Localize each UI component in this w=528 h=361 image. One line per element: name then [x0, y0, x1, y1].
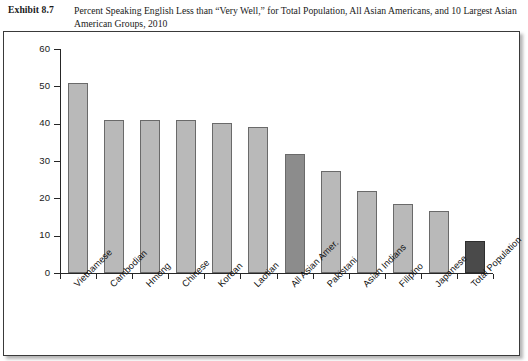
x-tick-mark — [457, 274, 458, 279]
bar — [176, 120, 196, 273]
bar-series — [60, 49, 493, 273]
exhibit-caption: Exhibit 8.7 Percent Speaking English Les… — [0, 0, 528, 32]
bar — [357, 191, 377, 273]
y-tick-label: 60 — [20, 44, 50, 54]
x-tick-mark — [349, 274, 350, 279]
x-tick-mark — [204, 274, 205, 279]
bar — [248, 127, 268, 273]
bar — [212, 123, 232, 273]
x-tick-mark — [493, 274, 494, 279]
x-tick-mark — [385, 274, 386, 279]
x-tick-mark — [168, 274, 169, 279]
bar — [285, 154, 305, 273]
x-axis-labels: VietnameseCambodianHmongChineseKoreanLao… — [60, 280, 500, 354]
x-tick-mark — [60, 274, 61, 279]
y-tick-label: 20 — [20, 193, 50, 203]
plot-area: 0102030405060 VietnameseCambodianHmongCh… — [4, 32, 519, 355]
y-tick-label: 50 — [20, 81, 50, 91]
y-tick-label: 40 — [20, 118, 50, 128]
bar — [393, 204, 413, 273]
x-tick-mark — [132, 274, 133, 279]
exhibit-title: Percent Speaking English Less than “Very… — [74, 4, 520, 30]
bar — [429, 211, 449, 273]
exhibit-number: Exhibit 8.7 — [8, 4, 54, 15]
x-tick-mark — [96, 274, 97, 279]
chart-container: 0102030405060 VietnameseCambodianHmongCh… — [3, 31, 520, 356]
y-tick-label: 10 — [20, 230, 50, 240]
x-tick-mark — [277, 274, 278, 279]
bar — [68, 83, 88, 273]
x-tick-mark — [240, 274, 241, 279]
x-tick-mark — [313, 274, 314, 279]
y-tick-label: 0 — [20, 268, 50, 278]
x-tick-mark — [421, 274, 422, 279]
y-tick-label: 30 — [20, 156, 50, 166]
